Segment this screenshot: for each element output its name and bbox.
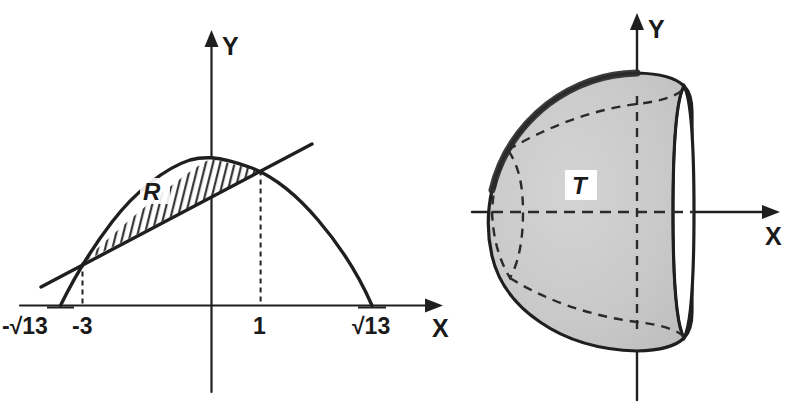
math-figure-canvas: R Y X -√13 -3 1 √13 [0,0,803,414]
left-y-axis-arrowhead [205,30,219,47]
left-y-axis-label: Y [222,32,239,60]
left-x-axis-label: X [432,314,449,342]
tick-label-one: 1 [253,313,266,339]
right-x-axis [690,205,780,219]
right-x-axis-arrowhead [762,205,780,219]
tick-label-neg-three: -3 [72,313,92,339]
left-y-axis [205,30,219,392]
region-t-label: T [572,172,589,199]
right-y-axis-label: Y [648,15,665,43]
region-r-label: R [143,178,161,205]
tick-label-neg-sqrt13: -√13 [2,313,48,339]
left-x-axis-arrowhead [425,299,443,313]
right-y-axis-arrowhead [630,13,644,30]
right-x-axis-label: X [765,222,782,250]
figure-root: R Y X -√13 -3 1 √13 [0,0,803,414]
region-r-hatch-fill [70,140,280,280]
right-panel-group: T Y X [472,13,782,400]
left-panel-group: R Y X -√13 -3 1 √13 [2,30,449,392]
tick-label-sqrt13: √13 [352,313,390,339]
